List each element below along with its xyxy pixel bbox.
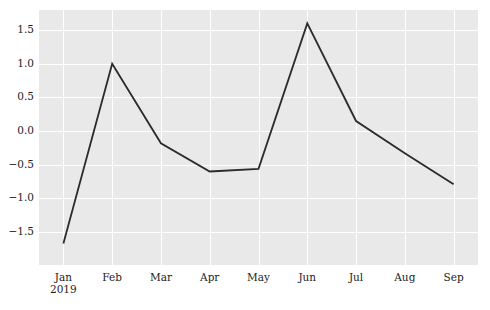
y-tick-label-1: 1.0 [0,57,34,69]
y-tick-label-0: 1.5 [0,23,34,35]
y-tick-label-2: 0.5 [0,90,34,102]
x-tick-label-5: Jun [298,271,316,283]
x-tick-year-0: 2019 [50,283,77,295]
y-tick-label-4: −0.5 [0,158,34,170]
x-tick-month-3: Apr [200,271,219,283]
x-tick-month-6: Jul [349,271,363,283]
series-1-polyline [63,23,453,243]
line-series [39,10,478,265]
y-tick-label-3: 0.0 [0,124,34,136]
y-tick-label-5: −1.0 [0,191,34,203]
plot-area [39,10,478,265]
x-tick-label-0: Jan2019 [50,271,77,295]
x-tick-month-0: Jan [50,271,77,283]
x-tick-label-3: Apr [200,271,219,283]
x-tick-label-8: Sep [444,271,464,283]
x-tick-month-2: Mar [150,271,172,283]
x-tick-label-2: Mar [150,271,172,283]
x-tick-label-7: Aug [394,271,415,283]
x-tick-month-5: Jun [298,271,316,283]
x-tick-label-1: Feb [102,271,122,283]
x-tick-month-8: Sep [444,271,464,283]
x-tick-month-1: Feb [102,271,122,283]
chart-figure: 1.51.00.50.0−0.5−1.0−1.5 Jan2019FebMarAp… [0,0,490,310]
x-tick-month-7: Aug [394,271,415,283]
x-tick-month-4: May [247,271,270,283]
x-tick-label-6: Jul [349,271,363,283]
y-tick-label-6: −1.5 [0,225,34,237]
x-tick-label-4: May [247,271,270,283]
